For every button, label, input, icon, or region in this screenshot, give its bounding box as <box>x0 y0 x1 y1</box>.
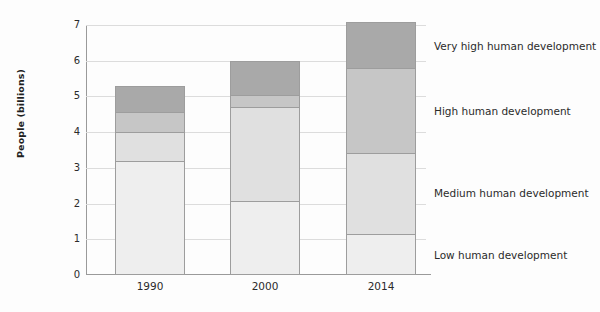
bar-segment-2014-very-high-human-development[interactable] <box>346 22 416 69</box>
bar-2014[interactable] <box>346 23 416 276</box>
x-tick-1990: 1990 <box>105 280 195 292</box>
y-tick-7: 7 <box>56 20 80 30</box>
y-tick-2: 2 <box>56 199 80 209</box>
bar-segment-2014-high-human-development[interactable] <box>346 68 416 154</box>
bar-segment-2000-low-human-development[interactable] <box>230 201 300 275</box>
x-tick-2000: 2000 <box>220 280 310 292</box>
bar-segment-1990-high-human-development[interactable] <box>115 112 185 133</box>
bar-2000[interactable] <box>230 62 300 275</box>
legend-label-medium-human-development: Medium human development <box>434 188 589 199</box>
y-tick-5: 5 <box>56 91 80 101</box>
x-tick-2014: 2014 <box>336 280 426 292</box>
bar-segment-2014-low-human-development[interactable] <box>346 234 416 275</box>
stacked-bar-chart: People (billions) 7 6 5 4 3 2 1 0 1990 2… <box>0 0 600 312</box>
legend-label-high-human-development: High human development <box>434 106 571 117</box>
bar-1990[interactable] <box>115 87 185 275</box>
bar-segment-2000-high-human-development[interactable] <box>230 95 300 108</box>
y-tick-6: 6 <box>56 56 80 66</box>
y-tick-3: 3 <box>56 163 80 173</box>
bar-segment-2000-very-high-human-development[interactable] <box>230 61 300 96</box>
bar-segment-1990-very-high-human-development[interactable] <box>115 86 185 112</box>
y-tick-1: 1 <box>56 234 80 244</box>
legend-label-very-high-human-development: Very high human development <box>434 41 596 52</box>
y-axis-title: People (billions) <box>15 54 26 174</box>
y-tick-4: 4 <box>56 127 80 137</box>
plot-area <box>86 25 426 275</box>
bar-segment-2014-medium-human-development[interactable] <box>346 153 416 235</box>
bar-segment-1990-medium-human-development[interactable] <box>115 132 185 162</box>
y-axis-tick-labels: 7 6 5 4 3 2 1 0 <box>52 25 80 275</box>
bar-segment-1990-low-human-development[interactable] <box>115 161 185 275</box>
bar-segment-2000-medium-human-development[interactable] <box>230 107 300 202</box>
legend-label-low-human-development: Low human development <box>434 250 567 261</box>
y-tick-0: 0 <box>56 270 80 280</box>
